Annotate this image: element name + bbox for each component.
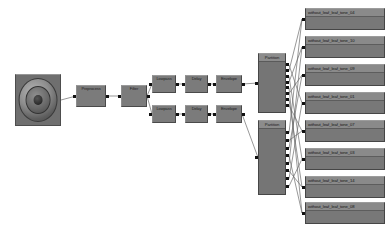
sink-box-2-in-port[interactable] [302, 74, 305, 77]
sink-box-4-titlebar: without_leaf_leaf_tone_07 [306, 121, 384, 129]
sink-box-5-titlebar: without_leaf_leaf_tone_03 [306, 149, 384, 157]
branch-1-node-1[interactable]: Delay [185, 105, 208, 123]
sink-box-1[interactable]: without_leaf_leaf_tone_10 [305, 36, 385, 58]
branch-1-node-1-label: Delay [186, 106, 207, 112]
sink-box-7-label: without_leaf_leaf_tone_08 [306, 203, 384, 210]
sink-box-7-titlebar: without_leaf_leaf_tone_08 [306, 203, 384, 211]
sink-box-3-in-port[interactable] [302, 102, 305, 105]
fanout-block-0-out-port-3[interactable] [286, 81, 289, 84]
fanout-block-0-out-port-7[interactable] [286, 104, 289, 107]
sink-box-2[interactable]: without_leaf_leaf_tone_09 [305, 64, 385, 86]
sink-box-5[interactable]: without_leaf_leaf_tone_03 [305, 148, 385, 170]
sink-box-0-label: without_leaf_leaf_tone_04 [306, 9, 384, 16]
branch-0-node-1[interactable]: Delay [185, 75, 208, 93]
branch-1-node-2-out-port[interactable] [242, 113, 245, 116]
branch-0-node-2-out-port[interactable] [242, 83, 245, 86]
sink-box-0[interactable]: without_leaf_leaf_tone_04 [305, 8, 385, 30]
sink-box-7-in-port[interactable] [302, 212, 305, 215]
chain-node-0-label: Preprocess [77, 86, 105, 92]
branch-1-node-0-in-port[interactable] [149, 113, 152, 116]
fanout-block-1-in-port[interactable] [255, 156, 258, 159]
diagram-canvas[interactable]: PreprocessFilter LowpassDelayEnvelopeLow… [0, 0, 390, 230]
branch-1-node-0[interactable]: Lowpass [152, 105, 176, 123]
branch-1-node-0-label: Lowpass [153, 106, 175, 112]
fanout-block-0-label: Partition [259, 54, 285, 61]
fanout-block-1-out-port-0[interactable] [286, 131, 289, 134]
fanout-block-1-out-port-6[interactable] [286, 177, 289, 180]
fanout-block-1-out-port-4[interactable] [286, 162, 289, 165]
speaker-source-node[interactable] [15, 74, 61, 126]
wire-fanout0-port5-to-sink2 [289, 75, 302, 94]
branch-1-node-2[interactable]: Envelope [216, 105, 242, 123]
wire-fanout1-port7-to-sink5 [289, 159, 302, 186]
sink-box-4-in-port[interactable] [302, 130, 305, 133]
branch-1-node-2-in-port[interactable] [213, 113, 216, 116]
branch-0-node-2-in-port[interactable] [213, 83, 216, 86]
fanout-block-1-out-port-3[interactable] [286, 154, 289, 157]
sink-box-6-in-port[interactable] [302, 186, 305, 189]
wire-fanout1-port6-to-sink3 [289, 103, 302, 179]
sink-box-1-in-port[interactable] [302, 46, 305, 49]
fanout-block-0[interactable]: Partition [258, 53, 286, 113]
wire-fanout0-port3-to-sink1 [289, 47, 302, 82]
fanout-block-1-out-port-7[interactable] [286, 185, 289, 188]
branch-0-node-1-out-port[interactable] [208, 83, 211, 86]
branch-0-node-1-label: Delay [186, 76, 207, 82]
sink-box-4-label: without_leaf_leaf_tone_07 [306, 121, 384, 128]
chain-node-1[interactable]: Filter [121, 85, 147, 107]
branch-1-node-2-label: Envelope [217, 106, 241, 112]
fanout-block-1-out-port-5[interactable] [286, 169, 289, 172]
sink-box-5-label: without_leaf_leaf_tone_03 [306, 149, 384, 156]
fanout-block-0-out-port-2[interactable] [286, 75, 289, 78]
sink-box-4[interactable]: without_leaf_leaf_tone_07 [305, 120, 385, 142]
sink-box-7[interactable]: without_leaf_leaf_tone_08 [305, 202, 385, 224]
wire-fanout1-port0-to-sink0 [289, 19, 302, 133]
fanout-block-1-label: Partition [259, 121, 285, 128]
fanout-block-0-titlebar: Partition [259, 54, 285, 62]
branch-1-node-1-in-port[interactable] [182, 113, 185, 116]
wire-fanout1-port5-to-sink6 [289, 171, 302, 187]
sink-box-3[interactable]: without_leaf_leaf_tone_01 [305, 92, 385, 114]
sink-box-2-label: without_leaf_leaf_tone_09 [306, 65, 384, 72]
branch-0-node-0-out-port[interactable] [176, 83, 179, 86]
branch-0-node-2[interactable]: Envelope [216, 75, 242, 93]
speaker-dustcap [34, 95, 43, 105]
sink-box-6-label: without_leaf_leaf_tone_14 [306, 177, 384, 184]
sink-box-6-titlebar: without_leaf_leaf_tone_14 [306, 177, 384, 185]
wire-fanout1-port3-to-sink7 [289, 156, 302, 213]
fanout-block-0-out-port-5[interactable] [286, 92, 289, 95]
branch-0-node-0-in-port[interactable] [149, 83, 152, 86]
wire-fanout0-port2-to-sink5 [289, 76, 302, 159]
wire-fanout0-port0-to-sink3 [289, 65, 302, 103]
wire-fanout0-port6-to-sink6 [289, 99, 302, 187]
chain-node-1-in-port[interactable] [118, 95, 121, 98]
wire-fanout1-port4-to-sink1 [289, 47, 302, 163]
sink-box-0-in-port[interactable] [302, 18, 305, 21]
fanout-block-1-out-port-1[interactable] [286, 139, 289, 142]
sink-box-5-in-port[interactable] [302, 158, 305, 161]
fanout-block-0-in-port[interactable] [255, 82, 258, 85]
chain-node-0-out-port[interactable] [106, 95, 109, 98]
wire-branch1-to-fanout1 [242, 114, 258, 158]
wire-fanout0-port4-to-sink7 [289, 88, 302, 213]
sink-box-1-titlebar: without_leaf_leaf_tone_10 [306, 37, 384, 45]
branch-1-node-0-out-port[interactable] [176, 113, 179, 116]
branch-0-node-0[interactable]: Lowpass [152, 75, 176, 93]
chain-node-0[interactable]: Preprocess [76, 85, 106, 107]
wire-fanout1-port2-to-sink2 [289, 75, 302, 148]
sink-box-3-label: without_leaf_leaf_tone_01 [306, 93, 384, 100]
branch-0-node-2-label: Envelope [217, 76, 241, 82]
branch-0-node-1-in-port[interactable] [182, 83, 185, 86]
fanout-block-0-out-port-1[interactable] [286, 69, 289, 72]
wire-fanout0-port1-to-sink0 [289, 19, 302, 71]
fanout-block-1-out-port-2[interactable] [286, 147, 289, 150]
chain-node-0-in-port[interactable] [73, 95, 76, 98]
fanout-block-0-out-port-6[interactable] [286, 98, 289, 101]
fanout-block-0-out-port-0[interactable] [286, 63, 289, 66]
chain-node-1-label: Filter [122, 86, 146, 92]
sink-box-6[interactable]: without_leaf_leaf_tone_14 [305, 176, 385, 198]
fanout-block-0-out-port-4[interactable] [286, 86, 289, 89]
branch-1-node-1-out-port[interactable] [208, 113, 211, 116]
chain-node-1-out-port[interactable] [147, 95, 150, 98]
fanout-block-1[interactable]: Partition [258, 120, 286, 195]
